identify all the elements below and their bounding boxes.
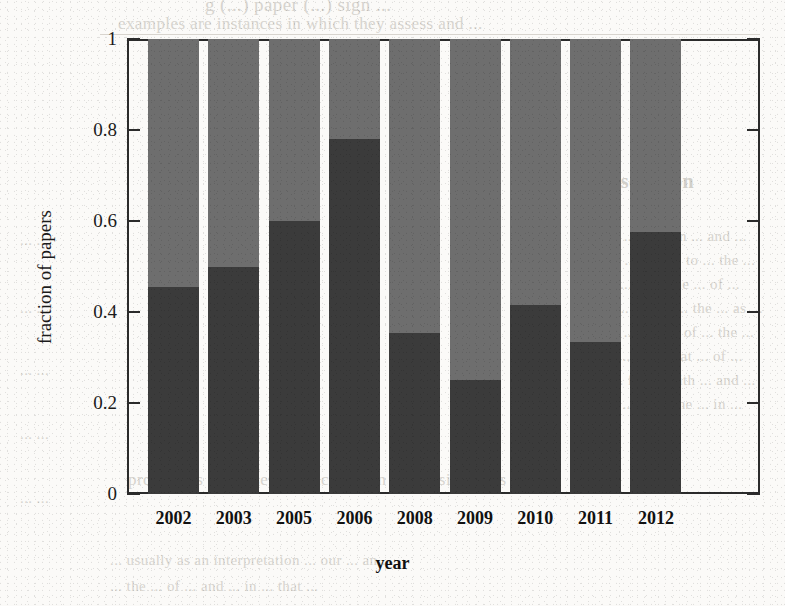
- bar-segment-lower: [329, 139, 380, 494]
- bar-segment-lower: [389, 333, 440, 494]
- bar-segment-upper: [329, 39, 380, 139]
- bar-segment-lower: [630, 232, 681, 494]
- bar-2009[interactable]: [450, 39, 501, 494]
- bars-layer: [127, 39, 760, 494]
- x-axis-tick-label-2012: 2012: [638, 508, 674, 529]
- bar-segment-upper: [389, 39, 440, 333]
- bar-segment-upper: [450, 39, 501, 380]
- y-axis-tick-label: 1: [57, 28, 117, 50]
- bar-segment-lower: [510, 305, 561, 494]
- stacked-bar-chart: fraction of papers 00.20.40.60.81 200220…: [0, 0, 785, 606]
- bar-segment-upper: [630, 39, 681, 232]
- y-axis-tick-label: 0.2: [57, 392, 117, 414]
- bar-segment-upper: [510, 39, 561, 305]
- y-axis-title: fraction of papers: [34, 177, 56, 377]
- bar-segment-lower: [570, 342, 621, 494]
- x-axis-tick-label-2011: 2011: [578, 508, 613, 529]
- bar-segment-upper: [269, 39, 320, 221]
- x-axis-tick-label-2006: 2006: [336, 508, 372, 529]
- y-axis-tick-label: 0.6: [57, 210, 117, 232]
- bar-segment-lower: [208, 267, 259, 495]
- x-axis-tick-label-2002: 2002: [156, 508, 192, 529]
- x-axis-tick-label-2005: 2005: [276, 508, 312, 529]
- y-axis-tick-label: 0: [57, 483, 117, 505]
- bar-segment-lower: [450, 380, 501, 494]
- bar-2008[interactable]: [389, 39, 440, 494]
- x-axis-tick-label-2010: 2010: [517, 508, 553, 529]
- bar-segment-upper: [208, 39, 259, 267]
- x-axis-tick-label-2003: 2003: [216, 508, 252, 529]
- bar-segment-upper: [148, 39, 199, 287]
- bar-2003[interactable]: [208, 39, 259, 494]
- bar-2006[interactable]: [329, 39, 380, 494]
- y-axis-tick-label: 0.4: [57, 301, 117, 323]
- bar-2011[interactable]: [570, 39, 621, 494]
- x-axis-tick-label-2008: 2008: [397, 508, 433, 529]
- bar-2010[interactable]: [510, 39, 561, 494]
- x-axis-tick-label-2009: 2009: [457, 508, 493, 529]
- x-axis-title: year: [0, 553, 785, 574]
- y-axis-tick-label: 0.8: [57, 119, 117, 141]
- bar-segment-lower: [269, 221, 320, 494]
- bar-2012[interactable]: [630, 39, 681, 494]
- bar-segment-lower: [148, 287, 199, 494]
- bar-2005[interactable]: [269, 39, 320, 494]
- bar-2002[interactable]: [148, 39, 199, 494]
- bar-segment-upper: [570, 39, 621, 342]
